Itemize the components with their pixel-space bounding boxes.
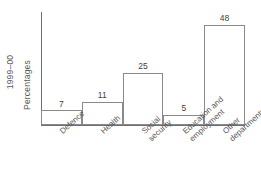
bar-value-label-1: 11 xyxy=(82,90,123,100)
y-axis-measure-label: Percentages xyxy=(22,54,32,116)
bar-value-label-4: 48 xyxy=(204,13,245,23)
bar-value-label-0: 7 xyxy=(41,99,82,109)
bar-chart-figure: 1999–00 Percentages 71125548 DefenceHeal… xyxy=(0,0,261,177)
bar-value-label-2: 25 xyxy=(123,61,164,71)
bar-value-label-3: 5 xyxy=(163,103,204,113)
y-axis-period-label: 1999–00 xyxy=(5,46,15,98)
